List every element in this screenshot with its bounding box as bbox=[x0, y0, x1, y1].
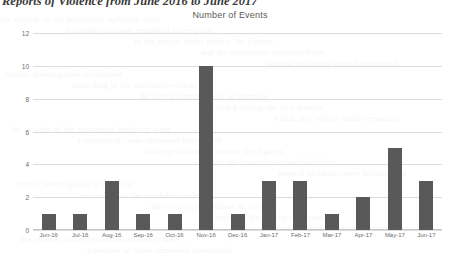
bar-feb-17 bbox=[293, 181, 307, 230]
bar-oct-16 bbox=[168, 214, 182, 230]
bar-chart: Number of Events 024681012 Jun-16Jul-16A… bbox=[0, 0, 460, 259]
x-axis-tick-label: Jun-16 bbox=[33, 232, 64, 238]
y-axis-tick-label: 4 bbox=[25, 161, 29, 168]
y-axis-tick-label: 0 bbox=[25, 227, 29, 234]
y-axis-tick-label: 12 bbox=[22, 30, 29, 37]
bar-slot bbox=[379, 33, 410, 230]
bar-series bbox=[33, 33, 442, 230]
bar-slot bbox=[285, 33, 316, 230]
x-axis-tick-label: Mar-17 bbox=[316, 232, 347, 238]
gridline bbox=[33, 230, 442, 231]
bar-slot bbox=[222, 33, 253, 230]
y-axis-tick-label: 6 bbox=[25, 128, 29, 135]
bar-apr-17 bbox=[356, 197, 370, 230]
bar-sep-16 bbox=[136, 214, 150, 230]
x-axis-tick-label: Feb-17 bbox=[285, 232, 316, 238]
bar-slot bbox=[190, 33, 221, 230]
x-axis-tick-label: May-17 bbox=[379, 232, 410, 238]
x-axis-labels: Jun-16Jul-16Aug-16Sep-16Oct-16Nov-16Dec-… bbox=[33, 232, 442, 238]
bar-jul-16 bbox=[73, 214, 87, 230]
bar-slot bbox=[96, 33, 127, 230]
bar-slot bbox=[316, 33, 347, 230]
bar-slot bbox=[411, 33, 442, 230]
x-axis-tick-label: Jan-17 bbox=[253, 232, 284, 238]
bar-nov-16 bbox=[199, 66, 213, 230]
bar-mar-17 bbox=[325, 214, 339, 230]
y-axis-tick-label: 2 bbox=[25, 194, 29, 201]
x-axis-tick-label: Jul-16 bbox=[64, 232, 95, 238]
x-axis-tick-label: Aug-16 bbox=[96, 232, 127, 238]
bar-slot bbox=[33, 33, 64, 230]
x-axis-tick-label: Dec-16 bbox=[222, 232, 253, 238]
plot-area: 024681012 bbox=[33, 33, 442, 230]
chart-title: Number of Events bbox=[0, 10, 460, 20]
bar-jun-16 bbox=[42, 214, 56, 230]
bar-dec-16 bbox=[231, 214, 245, 230]
bar-may-17 bbox=[388, 148, 402, 230]
page-heading: Reports of Violence from June 2016 to Ju… bbox=[2, 0, 302, 7]
bar-slot bbox=[127, 33, 158, 230]
x-axis-tick-label: Oct-16 bbox=[159, 232, 190, 238]
y-axis-tick-label: 8 bbox=[25, 95, 29, 102]
page-heading-text: Reports of Violence from June 2016 to Ju… bbox=[2, 0, 302, 7]
bar-slot bbox=[159, 33, 190, 230]
x-axis-tick-label: Sep-16 bbox=[127, 232, 158, 238]
bar-jun-17 bbox=[419, 181, 433, 230]
x-axis-tick-label: Nov-16 bbox=[190, 232, 221, 238]
x-axis-tick-label: Apr-17 bbox=[348, 232, 379, 238]
bar-slot bbox=[348, 33, 379, 230]
x-axis-tick-label: Jun-17 bbox=[411, 232, 442, 238]
bar-slot bbox=[253, 33, 284, 230]
bar-aug-16 bbox=[105, 181, 119, 230]
bar-slot bbox=[64, 33, 95, 230]
bar-jan-17 bbox=[262, 181, 276, 230]
y-axis-tick-label: 10 bbox=[22, 62, 29, 69]
